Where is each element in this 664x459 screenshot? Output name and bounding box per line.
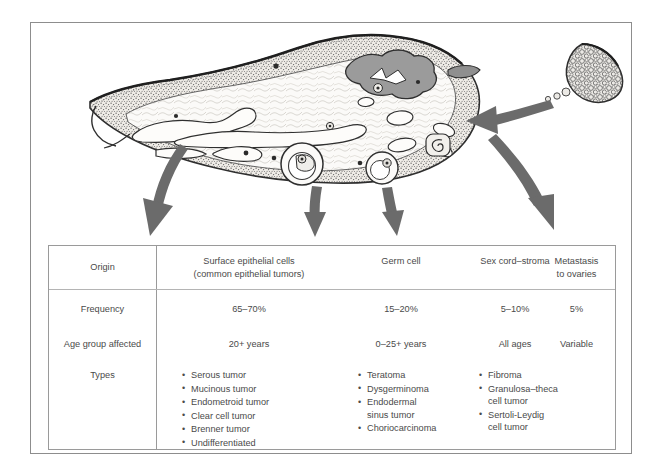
types-list: TeratomaDysgerminomaEndodermal sinus tum…: [358, 369, 478, 435]
header-line-1: Germ cell: [342, 255, 460, 268]
types-sex-cord-stroma: FibromaGranulosa–theca cell tumorSertoli…: [479, 369, 609, 435]
header-line-1: Metastasis: [536, 255, 617, 268]
age-group-surface-epithelial: 20+ years: [156, 338, 342, 351]
types-surface-epithelial: Serous tumorMucinous tumorEndometroid tu…: [182, 369, 347, 450]
row-label-origin: Origin: [49, 261, 156, 274]
column-header-germ-cell: Germ cell: [342, 255, 460, 268]
row-label-frequency: Frequency: [49, 303, 156, 316]
row-label-age-group: Age group affected: [49, 338, 156, 351]
header-rule: [49, 289, 615, 290]
tumor-type-item: Brenner tumor: [182, 423, 347, 436]
age-group-metastasis: Variable: [536, 338, 617, 351]
arrow-germ-cell: [304, 186, 326, 237]
tumor-type-item: Undifferentiated: [182, 437, 347, 450]
arrow-metastasis-to-table: [488, 134, 554, 230]
tumor-type-item: Fibroma: [479, 369, 609, 382]
tumor-type-item: Mucinous tumor: [182, 383, 347, 396]
frequency-surface-epithelial: 65–70%: [156, 303, 342, 316]
column-header-surface-epithelial: Surface epithelial cells (common epithel…: [156, 255, 342, 280]
tumor-type-item: Granulosa–theca cell tumor: [479, 383, 609, 408]
age-group-germ-cell: 0–25+ years: [342, 338, 460, 351]
header-line-2: (common epithelial tumors): [156, 268, 342, 281]
row-label-types: Types: [49, 369, 156, 382]
header-line-2: to ovaries: [536, 268, 617, 281]
atretic-follicle: [426, 134, 450, 156]
tumor-type-item: Endometroid tumor: [182, 396, 347, 409]
header-line-1: Surface epithelial cells: [156, 255, 342, 268]
ovary-illustration: [30, 22, 632, 237]
graafian-follicle-large: [281, 143, 323, 185]
graafian-follicle-small: [366, 152, 398, 184]
tumor-type-item: Clear cell tumor: [182, 410, 347, 423]
types-germ-cell: TeratomaDysgerminomaEndodermal sinus tum…: [358, 369, 478, 436]
types-list: FibromaGranulosa–theca cell tumorSertoli…: [479, 369, 609, 434]
tumor-type-item: Endodermal sinus tumor: [358, 396, 478, 421]
column-header-metastasis: Metastasis to ovaries: [536, 255, 617, 280]
frequency-metastasis: 5%: [536, 303, 617, 316]
tumor-classification-table: Origin Frequency Age group affected Type…: [48, 245, 616, 450]
ovary-body: [90, 35, 480, 185]
metastatic-cell-cluster-icon: [545, 44, 622, 102]
types-list: Serous tumorMucinous tumorEndometroid tu…: [182, 369, 347, 449]
tumor-type-item: Teratoma: [358, 369, 478, 382]
tumor-type-item: Serous tumor: [182, 369, 347, 382]
arrow-sex-cord-stroma: [382, 187, 404, 236]
tumor-type-item: Dysgerminoma: [358, 383, 478, 396]
tumor-type-item: Sertoli-Leydig cell tumor: [479, 409, 609, 434]
tumor-type-item: Choriocarcinoma: [358, 422, 478, 435]
frequency-germ-cell: 15–20%: [342, 303, 460, 316]
corpus-albicans-icon: [448, 66, 480, 78]
